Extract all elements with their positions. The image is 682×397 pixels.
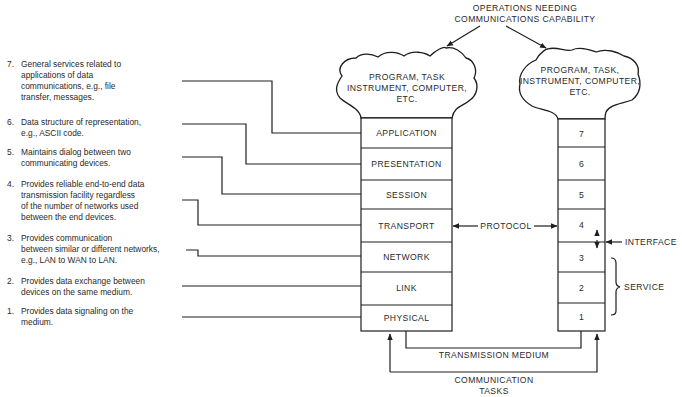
leader-line-7 — [182, 81, 361, 133]
svg-text:transfer, messages.: transfer, messages. — [21, 92, 94, 102]
right-layer-stack: 7 6 5 4 3 2 1 — [558, 119, 605, 331]
layer-network: NETWORK — [383, 252, 430, 262]
service-label: SERVICE — [624, 282, 664, 292]
svg-text:Provides reliable end-to-end d: Provides reliable end-to-end data — [21, 179, 145, 189]
layer-session: SESSION — [386, 190, 427, 200]
layer-number-2: 2 — [579, 283, 584, 293]
svg-text:Provides data exchange between: Provides data exchange between — [21, 276, 145, 286]
layer-number-3: 3 — [579, 253, 584, 263]
svg-text:medium.: medium. — [21, 317, 53, 327]
left-layer-stack: APPLICATION PRESENTATION SESSION TRANSPO… — [361, 118, 452, 331]
description-5: 5. Maintains dialog between two communic… — [7, 147, 131, 168]
osi-model-diagram: OPERATIONS NEEDING COMMUNICATIONS CAPABI… — [0, 0, 682, 397]
description-6: 6. Data structure of representation, e.g… — [7, 117, 141, 138]
svg-text:1.: 1. — [7, 306, 14, 316]
left-host-cloud: PROGRAM, TASK INSTRUMENT, COMPUTER, ETC. — [336, 47, 476, 118]
title-line-2: COMMUNICATIONS CAPABILITY — [455, 14, 596, 24]
title-line-1: OPERATIONS NEEDING — [473, 3, 577, 13]
svg-text:2.: 2. — [7, 276, 14, 286]
right-cloud-line-2: INSTRUMENT, COMPUTER, — [520, 76, 640, 86]
layer-presentation: PRESENTATION — [371, 159, 441, 169]
left-cloud-line-2: INSTRUMENT, COMPUTER, — [347, 83, 467, 93]
leader-line-4 — [182, 200, 361, 225]
layer-link: LINK — [396, 283, 417, 293]
layer-number-4: 4 — [579, 220, 584, 230]
service-brace: SERVICE — [611, 258, 664, 315]
svg-text:transmission facility regardle: transmission facility regardless — [21, 190, 135, 200]
svg-text:e.g., ASCII code.: e.g., ASCII code. — [21, 128, 84, 138]
layer-number-1: 1 — [579, 312, 584, 322]
svg-text:6.: 6. — [7, 117, 14, 127]
svg-text:General services related to: General services related to — [21, 59, 121, 69]
arrow-to-left-cloud — [447, 26, 480, 46]
interface-label: INTERFACE — [625, 237, 677, 247]
brace-icon — [611, 258, 620, 315]
svg-text:7.: 7. — [7, 59, 14, 69]
description-3: 3. Provides communication between simila… — [7, 233, 160, 265]
svg-text:e.g., LAN to WAN to LAN.: e.g., LAN to WAN to LAN. — [21, 255, 117, 265]
transmission-medium-line — [406, 331, 581, 348]
svg-text:applications of data: applications of data — [21, 70, 94, 80]
leader-line-3 — [186, 250, 361, 256]
left-cloud-line-3: ETC. — [396, 94, 417, 104]
svg-text:communications, e.g., file: communications, e.g., file — [21, 81, 116, 91]
description-7: 7. General services related to applicati… — [7, 59, 121, 102]
layer-descriptions: 7. General services related to applicati… — [7, 59, 160, 327]
protocol-label: PROTOCOL — [480, 221, 531, 231]
leader-line-5 — [182, 157, 361, 194]
layer-physical: PHYSICAL — [384, 313, 430, 323]
svg-text:devices on the same medium.: devices on the same medium. — [21, 287, 132, 297]
svg-text:4.: 4. — [7, 179, 14, 189]
svg-text:between the end devices.: between the end devices. — [21, 212, 116, 222]
svg-text:Provides data signaling on the: Provides data signaling on the — [21, 306, 134, 316]
communication-tasks: COMMUNICATION TASKS — [390, 334, 597, 396]
interface-indicator: INTERFACE — [597, 230, 677, 248]
communication-tasks-label-2: TASKS — [479, 386, 509, 396]
right-host-cloud: PROGRAM, TASK, INSTRUMENT, COMPUTER, ETC… — [520, 48, 641, 119]
layer-number-6: 6 — [579, 159, 584, 169]
svg-text:3.: 3. — [7, 233, 14, 243]
title: OPERATIONS NEEDING COMMUNICATIONS CAPABI… — [455, 3, 596, 24]
layer-application: APPLICATION — [376, 128, 437, 138]
transmission-medium: TRANSMISSION MEDIUM — [406, 331, 581, 360]
right-cloud-line-3: ETC. — [569, 87, 590, 97]
svg-text:5.: 5. — [7, 147, 14, 157]
left-cloud-line-1: PROGRAM, TASK — [369, 72, 445, 82]
svg-text:between similar or different n: between similar or different networks, — [21, 244, 160, 254]
description-1: 1. Provides data signaling on the medium… — [7, 306, 134, 327]
right-cloud-line-1: PROGRAM, TASK, — [541, 65, 620, 75]
transmission-medium-label: TRANSMISSION MEDIUM — [439, 350, 549, 360]
svg-text:of the number of networks used: of the number of networks used — [21, 201, 139, 211]
leader-lines — [182, 81, 361, 317]
svg-text:Maintains dialog between two: Maintains dialog between two — [21, 147, 131, 157]
svg-text:Data structure of representati: Data structure of representation, — [21, 117, 141, 127]
description-2: 2. Provides data exchange between device… — [7, 276, 145, 297]
arrow-to-right-cloud — [506, 26, 546, 48]
layer-number-7: 7 — [579, 129, 584, 139]
svg-text:communicating devices.: communicating devices. — [21, 158, 110, 168]
description-4: 4. Provides reliable end-to-end data tra… — [7, 179, 145, 222]
protocol-arrow: PROTOCOL — [453, 221, 557, 231]
layer-number-5: 5 — [579, 190, 584, 200]
communication-tasks-label-1: COMMUNICATION — [454, 375, 533, 385]
layer-transport: TRANSPORT — [378, 221, 435, 231]
svg-text:Provides communication: Provides communication — [21, 233, 113, 243]
